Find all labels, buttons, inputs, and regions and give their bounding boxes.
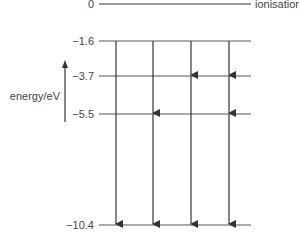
level-label-5.5: −5.5 — [72, 108, 94, 120]
level-label-10.4: −10.4 — [66, 219, 94, 231]
level-label-3.7: −3.7 — [72, 70, 94, 82]
axis-label: energy/eV — [10, 90, 61, 102]
axis-arrowhead-icon — [62, 60, 68, 68]
level-label-1.6: −1.6 — [72, 35, 94, 47]
energy-level-diagram: 0 −1.6 −3.7 −5.5 −10.4 ionisation energy… — [0, 0, 299, 239]
level-label-0: 0 — [88, 0, 94, 10]
ionisation-label: ionisation — [255, 0, 299, 10]
